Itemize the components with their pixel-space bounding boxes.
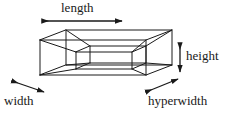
height-label: height <box>186 49 219 63</box>
hyperwidth-arrow <box>146 79 178 92</box>
connector-bottom-front-right <box>132 69 146 75</box>
inner-box-bottom-face <box>76 63 146 69</box>
width-label: width <box>4 94 34 108</box>
connector-top-front-left <box>40 40 76 52</box>
connector-bottom-front-left <box>40 69 76 75</box>
outer-box-top-face <box>40 30 172 40</box>
hyperwidth-label: hyperwidth <box>148 94 207 108</box>
width-arrow <box>12 81 44 92</box>
connector-top-back-left <box>66 30 90 46</box>
hyperrectangle-figure: length height width hyperwidth <box>0 0 225 115</box>
length-label: length <box>61 1 94 15</box>
outer-box-bottom-face <box>40 65 172 75</box>
